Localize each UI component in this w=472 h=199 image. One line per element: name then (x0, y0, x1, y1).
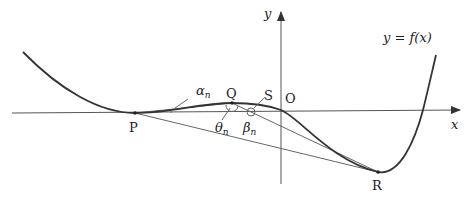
origin-label: O (285, 91, 296, 106)
theta-leader (222, 108, 230, 120)
point-R-dot (376, 170, 380, 174)
point-P-dot (133, 111, 137, 115)
point-Q-dot (230, 101, 234, 105)
diagram: P Q S R O x y y = f(x) αn θn βn (0, 0, 472, 199)
alpha-label: αn (196, 83, 211, 100)
function-label: y = f(x) (382, 30, 432, 45)
beta-label: βn (242, 120, 257, 137)
point-Q-label: Q (226, 86, 237, 101)
point-R-label: R (372, 178, 383, 193)
theta-label: θn (215, 120, 229, 137)
chord-QR (232, 103, 378, 172)
alpha-leader (175, 99, 188, 108)
point-S-label: S (264, 88, 273, 103)
x-axis-label: x (451, 117, 459, 132)
point-P-label: P (129, 120, 138, 135)
chord-PR (135, 113, 378, 172)
y-axis-label: y (263, 6, 272, 21)
